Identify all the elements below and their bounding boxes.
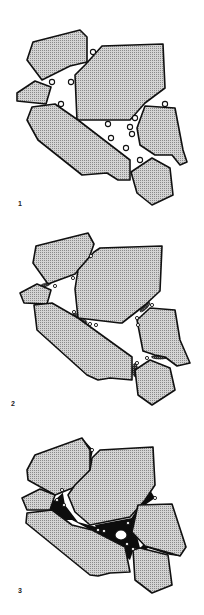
bubble [89,254,92,257]
bubble [53,284,56,287]
grain-right [137,308,190,366]
bubble [88,322,91,325]
bubble [102,529,105,532]
grain-small-left [20,284,51,304]
bubble [96,528,99,531]
bubble [123,145,128,150]
bubble [129,131,134,136]
bubble [126,521,129,524]
grain-bottom-right [133,548,172,593]
bubble [150,303,153,306]
grain-small-left [17,81,51,104]
panel-label-3: 3 [18,587,22,594]
bubble-large [115,530,127,540]
bubble [108,135,113,140]
bubble [135,361,138,364]
grain-right [137,106,187,165]
bubble [137,157,142,162]
bubble [68,79,73,84]
panel-3: 3 [18,438,186,594]
panel-2: 2 [11,233,190,407]
bubble [136,323,139,326]
panel-label-2: 2 [11,400,15,407]
bubble [105,121,110,126]
bubble [55,498,58,501]
bubble [145,356,148,359]
bubble [162,101,167,106]
panel-label-1: 1 [18,200,22,207]
bubble [131,547,134,550]
panel-1: 1 [17,30,187,207]
bubble [90,448,93,451]
grain-bottom-right [131,158,173,205]
bubble [135,316,138,319]
bubble [132,115,137,120]
bubble [62,503,65,506]
grain-cementation-figure: 1 [0,0,204,615]
bubble [71,276,74,279]
bubble [94,323,97,326]
bubble [153,496,156,499]
grain-bottom-right [135,360,175,405]
bubble [49,79,54,84]
bubble [90,49,95,54]
bubble [127,124,132,129]
bubble [60,488,63,491]
bubble [125,542,128,545]
bubble [58,101,63,106]
bubble [72,310,75,313]
